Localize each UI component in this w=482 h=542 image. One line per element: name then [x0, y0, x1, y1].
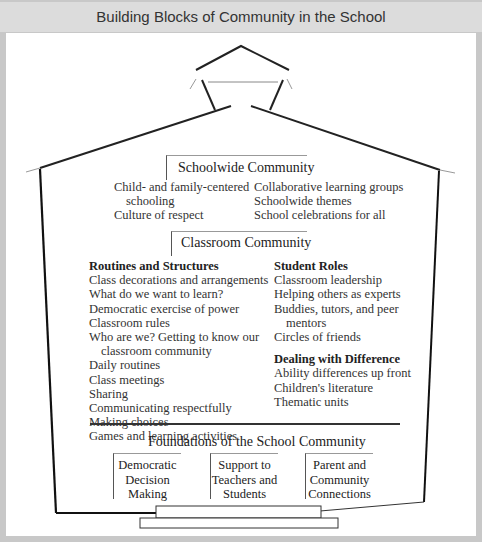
list-item: What do we want to learn?	[89, 287, 268, 301]
list-item: Democratic exercise of power	[89, 302, 268, 316]
list-item: Classroom leadership	[274, 273, 411, 287]
list-item: Schoolwide themes	[254, 194, 403, 208]
list-item: Circles of friends	[274, 330, 411, 344]
routines-heading: Routines and Structures	[89, 259, 268, 273]
list-item: Children's literature	[274, 381, 411, 395]
list-item: Sharing	[89, 387, 268, 401]
list-item: schooling	[114, 194, 249, 208]
list-item: Who are we? Getting to know our	[89, 330, 268, 344]
foundations-heading: Foundations of the School Community	[148, 434, 366, 450]
list-item: Collaborative learning groups	[254, 180, 403, 194]
list-item: Classroom rules	[89, 316, 268, 330]
foundation-box-support: Support to Teachers and Students	[210, 453, 278, 499]
list-item: Thematic units	[274, 395, 411, 409]
schoolwide-left-list: Child- and family-centered schooling Cul…	[114, 180, 249, 223]
list-item: Ability differences up front	[274, 366, 411, 380]
student-roles-list: Student Roles Classroom leadership Helpi…	[274, 259, 411, 409]
schoolwide-heading: Schoolwide Community	[178, 160, 315, 176]
list-item: Making choices	[89, 415, 268, 429]
list-item: Class decorations and arrangements	[89, 273, 268, 287]
student-roles-heading: Student Roles	[274, 259, 411, 273]
list-item: Class meetings	[89, 373, 268, 387]
list-item: Culture of respect	[114, 208, 249, 222]
list-item: Communicating respectfully	[89, 401, 268, 415]
foundation-box-democratic: Democratic Decision Making	[113, 453, 181, 499]
list-item: School celebrations for all	[254, 208, 403, 222]
list-item: classroom community	[89, 344, 268, 358]
schoolwide-right-list: Collaborative learning groups Schoolwide…	[254, 180, 403, 223]
list-item: mentors	[274, 316, 411, 330]
foundation-box-parent: Parent and Community Connections	[305, 453, 373, 499]
difference-heading: Dealing with Difference	[274, 352, 411, 366]
routines-list: Routines and Structures Class decoration…	[89, 259, 268, 444]
list-item: Buddies, tutors, and peer	[274, 302, 411, 316]
list-item: Helping others as experts	[274, 287, 411, 301]
classroom-heading: Classroom Community	[181, 235, 311, 251]
list-item: Child- and family-centered	[114, 180, 249, 194]
list-item: Daily routines	[89, 358, 268, 372]
